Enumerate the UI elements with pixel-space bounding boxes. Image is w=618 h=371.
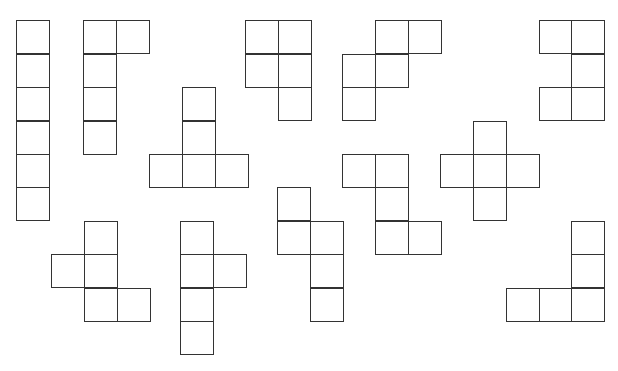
grid-square	[408, 221, 442, 255]
grid-square	[571, 288, 605, 322]
grid-square	[182, 154, 216, 188]
grid-square	[278, 87, 312, 121]
grid-square	[506, 288, 540, 322]
grid-square	[571, 54, 605, 88]
grid-square	[180, 321, 214, 355]
grid-square	[342, 54, 376, 88]
grid-square	[180, 288, 214, 322]
grid-square	[571, 254, 605, 288]
grid-square	[539, 288, 573, 322]
grid-square	[440, 154, 474, 188]
grid-square	[16, 154, 50, 188]
grid-square	[571, 87, 605, 121]
grid-square	[310, 221, 344, 255]
grid-square	[473, 121, 507, 155]
grid-square	[375, 187, 409, 221]
grid-square	[539, 87, 573, 121]
grid-square	[16, 87, 50, 121]
grid-square	[83, 54, 117, 88]
grid-square	[149, 154, 183, 188]
grid-square	[278, 54, 312, 88]
grid-square	[16, 187, 50, 221]
grid-square	[310, 288, 344, 322]
grid-square	[83, 121, 117, 155]
grid-square	[117, 288, 151, 322]
grid-square	[473, 154, 507, 188]
grid-square	[182, 87, 216, 121]
grid-square	[16, 54, 50, 88]
grid-square	[83, 20, 117, 54]
polyomino-diagram	[0, 0, 618, 371]
grid-square	[310, 254, 344, 288]
grid-square	[277, 187, 311, 221]
grid-square	[83, 87, 117, 121]
grid-square	[506, 154, 540, 188]
grid-square	[278, 20, 312, 54]
grid-square	[375, 221, 409, 255]
grid-square	[539, 20, 573, 54]
grid-square	[277, 221, 311, 255]
grid-square	[16, 20, 50, 54]
grid-square	[180, 254, 214, 288]
grid-square	[408, 20, 442, 54]
grid-square	[180, 221, 214, 255]
grid-square	[51, 254, 85, 288]
grid-square	[84, 221, 118, 255]
grid-square	[342, 87, 376, 121]
grid-square	[245, 54, 279, 88]
grid-square	[571, 221, 605, 255]
grid-square	[182, 121, 216, 155]
grid-square	[116, 20, 150, 54]
grid-square	[571, 20, 605, 54]
grid-square	[375, 54, 409, 88]
grid-square	[473, 187, 507, 221]
grid-square	[375, 154, 409, 188]
grid-square	[342, 154, 376, 188]
grid-square	[84, 288, 118, 322]
grid-square	[84, 254, 118, 288]
grid-square	[215, 154, 249, 188]
grid-square	[245, 20, 279, 54]
grid-square	[16, 121, 50, 155]
grid-square	[213, 254, 247, 288]
grid-square	[375, 20, 409, 54]
